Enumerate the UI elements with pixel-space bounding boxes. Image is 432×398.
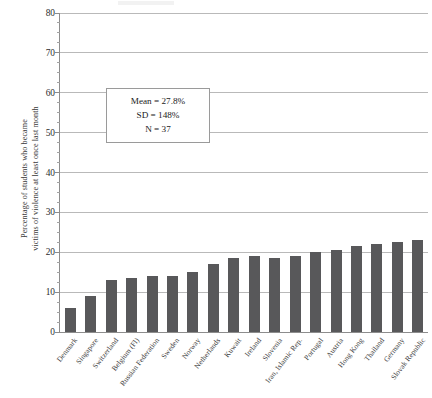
annotation-n: N = 37 xyxy=(113,122,203,136)
y-axis-tick-label: 10 xyxy=(46,287,55,297)
bar xyxy=(208,264,219,332)
bar-series xyxy=(60,13,428,332)
statistics-annotation: Mean = 27.8% SD = 148% N = 37 xyxy=(106,88,210,143)
annotation-sd: SD = 148% xyxy=(113,108,203,122)
bar xyxy=(331,250,342,332)
annotation-mean: Mean = 27.8% xyxy=(113,94,203,108)
y-axis-tick-label: 20 xyxy=(46,247,55,257)
bar xyxy=(147,276,158,332)
bar xyxy=(290,256,301,332)
figure: Percentage of students who became victim… xyxy=(0,0,432,398)
x-axis-label: Iran, Islamic Rep. xyxy=(263,336,304,385)
bar xyxy=(187,272,198,332)
bar xyxy=(249,256,260,332)
bar xyxy=(228,258,239,332)
y-axis-tick-label: 30 xyxy=(46,207,55,217)
bar xyxy=(65,308,76,332)
bar xyxy=(392,242,403,332)
bar xyxy=(371,244,382,332)
bar xyxy=(106,280,117,332)
bar xyxy=(126,278,137,332)
bar xyxy=(412,240,423,332)
x-axis-label: Kuwait xyxy=(222,336,243,359)
bar xyxy=(269,258,280,332)
x-axis-label: Sweden xyxy=(160,336,182,360)
y-axis-tick-label: 70 xyxy=(46,48,55,58)
y-axis-tick-label: 80 xyxy=(46,8,55,18)
plot-area: 01020304050607080 xyxy=(59,13,427,332)
bar xyxy=(310,252,321,332)
y-axis-tick-label: 60 xyxy=(46,88,55,98)
y-axis-tick-label: 50 xyxy=(46,128,55,138)
y-axis-tick-label: 40 xyxy=(46,168,55,178)
y-axis-title: Percentage of students who became victim… xyxy=(20,29,41,329)
y-axis-tick-label: 0 xyxy=(50,327,55,337)
x-axis-label: Portugal xyxy=(302,336,325,362)
bar xyxy=(351,246,362,332)
scan-artifact-top xyxy=(118,1,174,5)
bar xyxy=(85,296,96,332)
bar xyxy=(167,276,178,332)
